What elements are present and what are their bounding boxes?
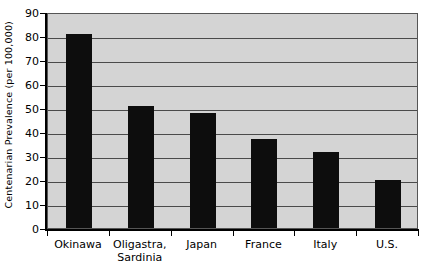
x-axis-tickmark [294,231,295,236]
y-axis-tickmark [40,133,45,134]
x-axis-tick-label-line: Sardinia [113,251,166,264]
x-axis-tick-label-line: Japan [186,238,217,251]
x-axis-tickmark [171,231,172,236]
y-axis-tick-labels: 0102030405060708090 [18,13,42,229]
x-axis-tickmarks [47,231,418,236]
x-axis-tick-label: France [245,238,282,251]
x-axis-tick-label: Japan [186,238,217,251]
x-axis-tick-label-line: France [245,238,282,251]
y-axis-tick-label: 20 [25,176,39,187]
x-axis-tick-label: Italy [313,238,337,251]
y-axis-tickmark [40,229,45,230]
x-axis-tick-label: Okinawa [54,238,102,251]
y-axis-tick-label: 30 [25,152,39,163]
y-axis-tick-label: 90 [25,8,39,19]
x-axis-tickmark [356,231,357,236]
x-axis-tick-label: U.S. [376,238,398,251]
x-axis-tickmark [47,231,48,236]
y-axis-tickmark [40,181,45,182]
bar-chart: Centenarian Prevalence (per 100,000) 010… [0,0,430,271]
bar [251,139,277,228]
x-axis-tickmark [233,231,234,236]
y-axis-tickmark [40,85,45,86]
y-axis-tick-label: 40 [25,128,39,139]
y-axis-tick-label: 70 [25,56,39,67]
y-axis-tick-label: 10 [25,200,39,211]
bar [190,113,216,228]
x-axis-tick-label-line: U.S. [376,238,398,251]
plot-area [47,13,418,229]
y-axis-tick-label: 50 [25,104,39,115]
y-axis-tickmark [40,205,45,206]
y-axis-tickmark [40,61,45,62]
y-axis-tickmark [40,109,45,110]
x-axis-tick-label: Oligastra,Sardinia [113,238,166,264]
x-axis-tickmark [109,231,110,236]
bar [313,152,339,228]
x-axis-tick-label-line: Okinawa [54,238,102,251]
bar [66,34,92,228]
x-axis-tick-labels: OkinawaOligastra,SardiniaJapanFranceItal… [47,238,418,271]
bar [128,106,154,228]
bar [375,180,401,228]
x-axis-tick-label-line: Oligastra, [113,238,166,251]
y-axis-tick-label: 80 [25,32,39,43]
x-axis-tickmark [418,231,419,236]
bars-group [48,14,417,228]
x-axis-tick-label-line: Italy [313,238,337,251]
y-axis-title-text: Centenarian Prevalence (per 100,000) [4,21,14,208]
y-axis-tick-label: 0 [32,224,39,235]
y-axis-tickmark [40,37,45,38]
y-axis-title: Centenarian Prevalence (per 100,000) [0,0,18,229]
y-axis-tickmark [40,13,45,14]
y-axis-tick-label: 60 [25,80,39,91]
y-axis-tickmark [40,157,45,158]
